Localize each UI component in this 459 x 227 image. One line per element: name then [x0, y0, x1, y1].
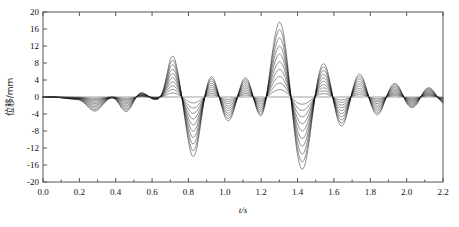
y-tick-label: 4	[35, 75, 40, 85]
y-tick-label: -4	[32, 109, 40, 119]
x-tick-label: 2.2	[437, 187, 448, 197]
x-tick-label: 0.0	[37, 187, 49, 197]
x-tick-label: 0.6	[146, 187, 158, 197]
x-tick-label: 0.2	[74, 187, 85, 197]
y-tick-label: 0	[35, 92, 40, 102]
y-tick-label: 12	[30, 41, 39, 51]
y-axis-title: 位移/mm	[4, 78, 15, 117]
x-tick-label: 1.4	[292, 187, 304, 197]
y-tick-label: 16	[30, 24, 40, 34]
displacement-time-history-chart: 0.00.20.40.60.81.01.21.41.61.82.02.2 201…	[0, 0, 459, 227]
y-tick-label: -16	[27, 160, 39, 170]
y-tick-label: 20	[30, 7, 40, 17]
x-tick-label: 1.2	[256, 187, 267, 197]
y-tick-label: 8	[35, 58, 40, 68]
x-tick-label: 0.8	[183, 187, 195, 197]
x-tick-label: 2.0	[401, 187, 413, 197]
y-tick-label: -12	[27, 143, 39, 153]
chart-svg: 0.00.20.40.60.81.01.21.41.61.82.02.2 201…	[0, 0, 459, 227]
x-tick-label: 0.4	[110, 187, 122, 197]
y-tick-label: -8	[32, 126, 40, 136]
x-tick-label: 1.6	[328, 187, 340, 197]
x-axis-title: t/s	[239, 205, 248, 215]
x-tick-label: 1.0	[219, 187, 231, 197]
x-tick-label: 1.8	[365, 187, 377, 197]
y-tick-label: -20	[27, 177, 39, 187]
